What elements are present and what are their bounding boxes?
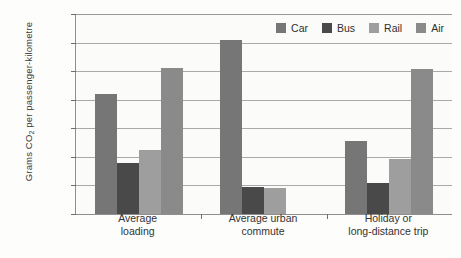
legend-label: Bus <box>337 22 355 34</box>
bar-rail-1 <box>139 150 161 214</box>
chart-legend: CarBusRailAir <box>276 22 444 34</box>
legend-swatch-icon <box>276 23 286 33</box>
legend-label: Air <box>431 22 444 34</box>
bar-air-1 <box>161 68 183 214</box>
bar-rail-2 <box>264 188 286 214</box>
bar-bus-2 <box>242 187 264 214</box>
y-axis-title-prefix: Grams CO <box>23 135 34 182</box>
legend-swatch-icon <box>322 23 332 33</box>
x-axis-group-label: Holiday orlong-distance trip <box>313 212 461 237</box>
bar-bus-1 <box>117 163 139 214</box>
legend-swatch-icon <box>369 23 379 33</box>
legend-swatch-icon <box>416 23 426 33</box>
x-axis-group-label-line: long-distance trip <box>313 225 461 238</box>
legend-item-air[interactable]: Air <box>416 22 444 34</box>
legend-item-rail[interactable]: Rail <box>369 22 402 34</box>
bar-bus-3 <box>367 183 389 214</box>
legend-item-car[interactable]: Car <box>276 22 308 34</box>
bar-rail-3 <box>389 159 411 214</box>
x-axis-group-label-line: Holiday or <box>313 212 461 225</box>
y-axis-title-subscript: 2 <box>28 131 35 135</box>
bar-car-2 <box>220 40 242 214</box>
bar-air-3 <box>411 69 433 214</box>
bar-car-1 <box>95 94 117 214</box>
legend-item-bus[interactable]: Bus <box>322 22 355 34</box>
legend-label: Rail <box>384 22 402 34</box>
y-axis-title: Grams CO2 per passenger-kilometre <box>23 2 34 202</box>
legend-label: Car <box>291 22 308 34</box>
plot-area: 050100150200250300350 CarBusRailAir <box>75 14 452 215</box>
bar-series-container <box>76 14 452 214</box>
y-axis-title-suffix: per passenger-kilometre <box>23 22 34 131</box>
bar-car-3 <box>345 141 367 214</box>
bar-chart-figure: Grams CO2 per passenger-kilometre 050100… <box>0 0 461 258</box>
